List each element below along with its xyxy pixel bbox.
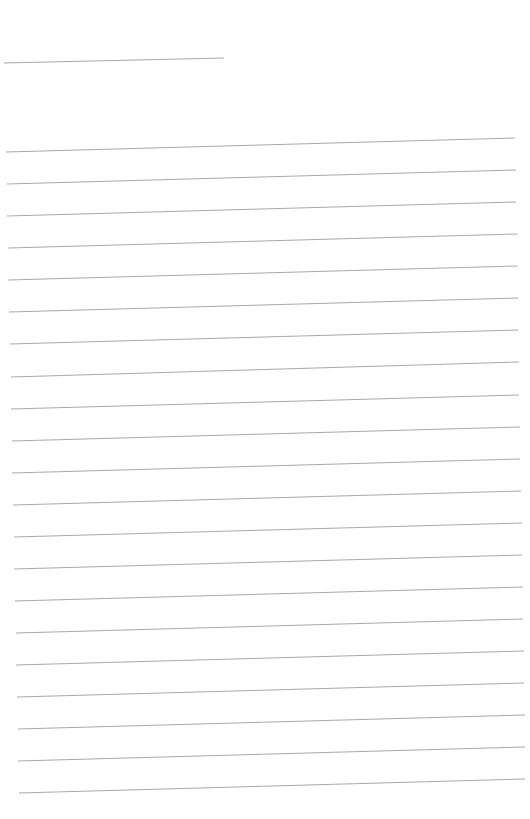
- lined-sheet: [0, 0, 530, 819]
- page-background: [0, 0, 530, 819]
